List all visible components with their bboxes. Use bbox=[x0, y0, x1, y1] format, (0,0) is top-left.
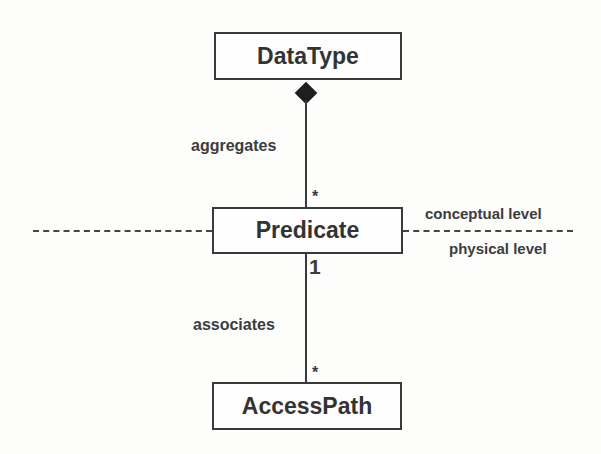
class-accesspath-name: AccessPath bbox=[242, 393, 372, 420]
class-accesspath: AccessPath bbox=[212, 382, 402, 430]
aggregates-label: aggregates bbox=[191, 137, 276, 155]
level-separator-right bbox=[403, 230, 573, 232]
physical-level-label: physical level bbox=[449, 240, 547, 257]
class-datatype: DataType bbox=[214, 32, 402, 80]
associates-label: associates bbox=[193, 316, 275, 334]
aggregates-connector bbox=[305, 100, 307, 207]
conceptual-level-label: conceptual level bbox=[425, 205, 542, 222]
class-datatype-name: DataType bbox=[257, 43, 359, 70]
level-separator-left bbox=[33, 230, 212, 232]
associates-from-multiplicity: 1 bbox=[309, 255, 321, 279]
class-predicate-name: Predicate bbox=[256, 217, 360, 244]
aggregates-multiplicity: * bbox=[312, 188, 318, 206]
class-predicate: Predicate bbox=[212, 207, 403, 254]
associates-to-multiplicity: * bbox=[312, 364, 318, 382]
associates-connector bbox=[305, 254, 307, 382]
